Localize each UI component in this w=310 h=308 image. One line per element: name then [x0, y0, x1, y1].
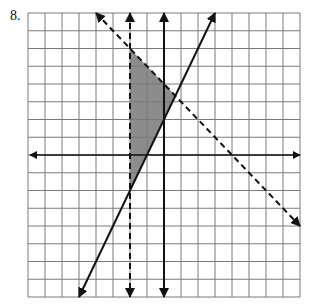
coordinate-graph — [0, 0, 310, 308]
